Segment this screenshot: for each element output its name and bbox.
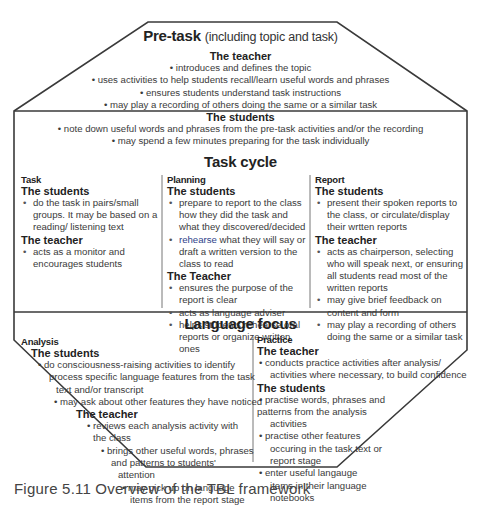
analysis-teacher-line: • reviews each analysis activity with [87, 420, 253, 432]
analysis-students-line: • may ask about other features they have… [54, 396, 253, 408]
pre-task-teacher-item: • ensures students understand task instr… [14, 87, 467, 99]
practice-teacher-line: activities where necessary, to build con… [270, 369, 457, 381]
practice-teacher-heading: The teacher [257, 345, 457, 357]
list-item: do the task in pairs/small groups. It ma… [21, 197, 159, 234]
list-item: ensures the purpose of the report is cle… [167, 282, 307, 306]
pre-task-teacher-heading: The teacher [14, 50, 467, 62]
pre-task-students-item: • note down useful words and phrases fro… [14, 123, 467, 135]
list-item: present their spoken reports to the clas… [315, 197, 463, 234]
practice-teacher-line: • conducts practice activities after ana… [259, 357, 457, 369]
list-item: prepare to report to the class how they … [167, 197, 307, 234]
analysis-teacher-line: • brings other useful words, phrases [101, 445, 253, 457]
analysis-teacher-line: the class [93, 432, 253, 444]
practice-title: Practice [257, 334, 457, 345]
list-item: acts as chairperson, selecting who will … [315, 246, 463, 295]
pre-task-teacher-item: • uses activities to help students recal… [14, 74, 467, 86]
planning-students-list: prepare to report to the class how they … [167, 197, 307, 270]
task-teacher-heading: The teacher [21, 234, 159, 246]
pre-task-teacher-item: • may play a recording of others doing t… [14, 99, 467, 111]
practice-column: Practice The teacher • conducts practice… [257, 334, 457, 504]
pre-task-students-heading: The students [14, 111, 467, 123]
highlight-word: rehearse [179, 234, 217, 245]
planning-column-title: Planning [167, 174, 307, 185]
practice-students-line: patterns from the analysis [257, 406, 457, 418]
report-students-list: present their spoken reports to the clas… [315, 197, 463, 234]
practice-students-line: • enter useful langauge [259, 467, 457, 479]
task-cycle-title: Task cycle [14, 153, 467, 171]
pre-task-title-text: Pre-task [143, 27, 201, 44]
pre-task-students-item: • may spend a few minutes preparing for … [14, 135, 467, 147]
task-teacher-list: acts as a monitor and encourages student… [21, 246, 159, 270]
task-column: Task The students do the task in pairs/s… [21, 174, 159, 270]
language-focus-title: Language focus [14, 315, 467, 333]
figure-caption-label: Figure 5.11 [14, 480, 91, 497]
list-item: acts as a monitor and encourages student… [21, 246, 159, 270]
report-teacher-heading: The teacher [315, 234, 463, 246]
analysis-title: Analysis [21, 336, 253, 347]
practice-students-heading: The students [257, 382, 457, 394]
pre-task-section: Pre-task (including topic and task) The … [14, 27, 467, 148]
report-students-heading: The students [315, 185, 463, 197]
task-students-list: do the task in pairs/small groups. It ma… [21, 197, 159, 234]
practice-students-line: report stage [270, 455, 457, 467]
practice-students-line: • practise other features [259, 430, 457, 442]
task-students-heading: The students [21, 185, 159, 197]
pre-task-title: Pre-task (including topic and task) [14, 27, 467, 46]
figure-caption-text: Overview of the TBL framework [95, 480, 310, 497]
planning-students-heading: The students [167, 185, 307, 197]
pre-task-subtitle: (including topic and task) [205, 30, 338, 44]
analysis-students-line: text and/or transcript [56, 384, 253, 396]
practice-students-line: activities [270, 418, 457, 430]
practice-students-line: occuring in the task text or [270, 443, 457, 455]
analysis-teacher-heading: The teacher [76, 408, 253, 420]
report-column-title: Report [315, 174, 463, 185]
analysis-students-heading: The students [31, 347, 253, 359]
list-item: rehearse what they will say or draft a w… [167, 234, 307, 271]
analysis-students-line: • do consciousness-raising activities to… [38, 359, 253, 371]
pre-task-teacher-item: • introduces and defines the topic [14, 62, 467, 74]
planning-teacher-heading: The Teacher [167, 270, 307, 282]
figure-caption: Figure 5.11 Overview of the TBL framewor… [14, 480, 310, 497]
analysis-teacher-line: and patterns to students' [111, 457, 253, 469]
task-column-title: Task [21, 174, 159, 185]
analysis-students-line: process specific language features from … [49, 371, 253, 383]
practice-students-line: • practise words, phrases and [259, 394, 457, 406]
